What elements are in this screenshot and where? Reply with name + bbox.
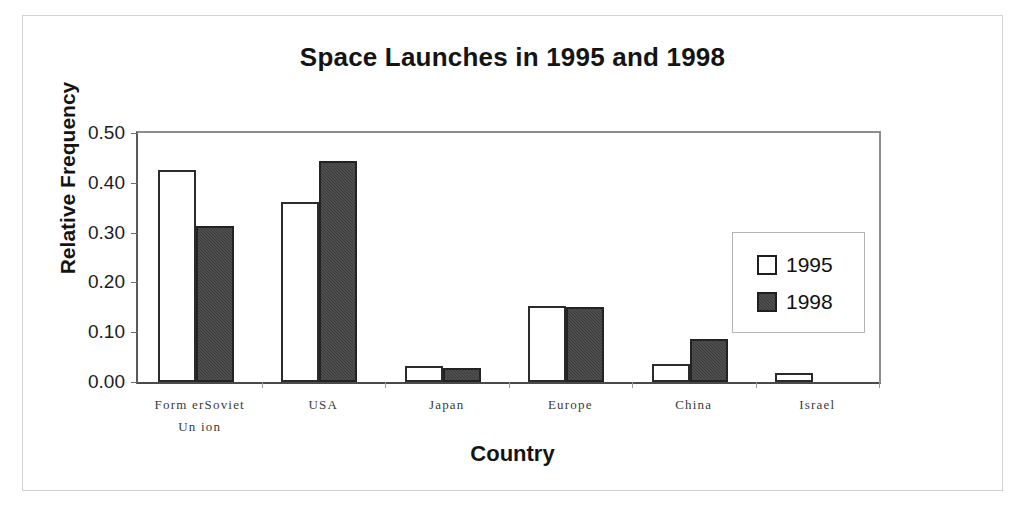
y-axis-tick-label: 0.10 (88, 321, 125, 343)
x-axis-tick (632, 382, 633, 388)
bar-1995 (775, 373, 813, 382)
y-axis-tick-label: 0.40 (88, 172, 125, 194)
x-axis-tick (509, 382, 510, 388)
bar-group (405, 133, 481, 382)
legend-swatch-1995-icon (757, 255, 777, 275)
bar-group (158, 133, 234, 382)
y-axis-tick (131, 332, 138, 333)
bar-1998 (566, 307, 604, 382)
y-axis-tick (131, 282, 138, 283)
y-axis-tick (131, 382, 138, 383)
bar-1998 (319, 161, 357, 382)
legend-item-1995: 1995 (757, 246, 864, 283)
bar-1995 (652, 364, 690, 382)
chart-legend: 1995 1998 (732, 232, 865, 333)
y-axis-tick-label: 0.20 (88, 271, 125, 293)
legend-label-1998: 1998 (786, 290, 833, 314)
y-axis-tick-label: 0.00 (88, 371, 125, 393)
figure-frame: Space Launches in 1995 and 1998 Relative… (22, 15, 1003, 491)
x-axis-tick (385, 382, 386, 388)
x-axis-tick (879, 382, 880, 388)
x-axis-category-label: USA (308, 394, 338, 416)
bar-group (281, 133, 357, 382)
x-axis-title: Country (23, 441, 1002, 467)
bar-1995 (405, 366, 443, 382)
bar-1995 (281, 202, 319, 382)
x-axis-category-label: China (675, 394, 712, 416)
legend-label-1995: 1995 (786, 253, 833, 277)
y-axis-tick (131, 183, 138, 184)
y-axis-tick (131, 233, 138, 234)
x-axis-category-label: Israel (799, 394, 835, 416)
x-axis-category-label: Europe (548, 394, 593, 416)
bar-1998 (196, 226, 234, 382)
chart-title: Space Launches in 1995 and 1998 (23, 42, 1002, 73)
y-axis-title: Relative Frequency (56, 68, 80, 288)
bar-group (528, 133, 604, 382)
legend-item-1998: 1998 (757, 283, 864, 320)
x-axis-tick (262, 382, 263, 388)
y-axis-tick-label: 0.50 (88, 122, 125, 144)
x-axis-category-label: Form erSovietUn ion (155, 394, 245, 438)
y-axis-tick (131, 133, 138, 134)
y-axis-tick-label: 0.30 (88, 222, 125, 244)
legend-swatch-1998-icon (757, 292, 777, 312)
bar-1995 (528, 306, 566, 382)
bar-group (652, 133, 728, 382)
bar-1998 (690, 339, 728, 382)
x-axis-tick (756, 382, 757, 388)
bar-1998 (443, 368, 481, 382)
bar-1995 (158, 170, 196, 382)
x-axis-category-label: Japan (429, 394, 465, 416)
